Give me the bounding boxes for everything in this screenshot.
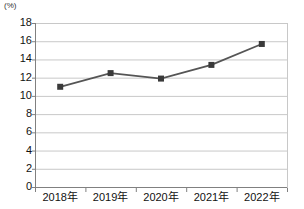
x-axis-tick-label: 2020年	[143, 191, 178, 203]
x-axis-tick-label: 2022年	[244, 191, 279, 203]
line-chart: (%) 181614121086420 2018年2019年2020年2021年…	[0, 0, 304, 209]
x-axis-tick-label: 2019年	[93, 191, 128, 203]
x-axis-tick-label: 2021年	[194, 191, 229, 203]
x-axis-tick-label: 2018年	[42, 191, 77, 203]
x-axis-tick-labels: 2018年2019年2020年2021年2022年	[0, 0, 304, 209]
